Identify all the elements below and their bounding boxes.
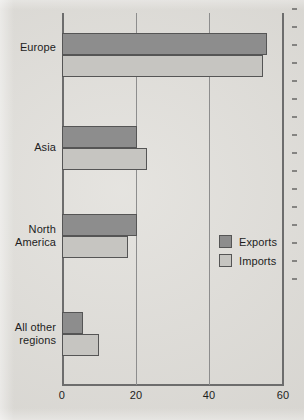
bar-europe-imports bbox=[62, 55, 263, 77]
bar-asia-imports bbox=[62, 148, 147, 170]
category-label-europe: Europe bbox=[20, 41, 56, 54]
legend-label-exports: Exports bbox=[239, 236, 277, 248]
x-tick-label-20: 20 bbox=[130, 389, 143, 401]
category-label-north-america: North America bbox=[15, 223, 56, 249]
chart-page: 0 20 40 60 Europe Asia North America All… bbox=[0, 0, 304, 420]
x-tick-label-0: 0 bbox=[59, 389, 65, 401]
x-tick-label-40: 40 bbox=[203, 389, 216, 401]
horizontal-bar-chart: 0 20 40 60 Europe Asia North America All… bbox=[0, 0, 304, 420]
plot-right-border bbox=[282, 13, 284, 386]
legend-item-imports: Imports bbox=[219, 251, 277, 270]
bar-all-other-regions-exports bbox=[62, 312, 83, 334]
exports-swatch-icon bbox=[219, 235, 232, 248]
bar-north-america-exports bbox=[62, 214, 137, 236]
imports-swatch-icon bbox=[219, 254, 232, 267]
x-axis-line bbox=[62, 384, 284, 386]
chart-legend: Exports Imports bbox=[219, 232, 277, 270]
category-label-all-other-regions: All other regions bbox=[15, 321, 56, 347]
bar-asia-exports bbox=[62, 126, 137, 148]
x-tick-label-60: 60 bbox=[277, 389, 290, 401]
adjacent-text-column-sliver bbox=[290, 0, 304, 420]
bar-north-america-imports bbox=[62, 236, 128, 258]
category-label-asia: Asia bbox=[34, 141, 56, 154]
legend-label-imports: Imports bbox=[239, 255, 276, 267]
bar-europe-exports bbox=[62, 33, 267, 55]
legend-item-exports: Exports bbox=[219, 232, 277, 251]
bar-all-other-regions-imports bbox=[62, 334, 99, 356]
